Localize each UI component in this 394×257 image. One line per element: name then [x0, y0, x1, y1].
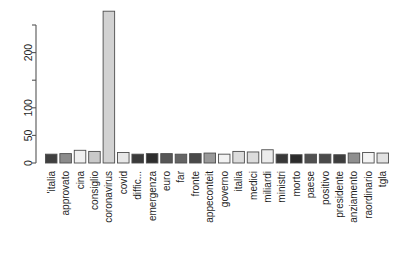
bar — [319, 154, 331, 163]
x-axis-label: emergenza — [147, 171, 158, 221]
bar — [305, 154, 317, 163]
x-axis-label: governo — [219, 171, 230, 208]
bar — [146, 154, 158, 163]
x-axis-label: ministri — [276, 171, 287, 203]
bar — [118, 153, 130, 163]
y-tick-label: 100 — [22, 99, 34, 117]
x-axis-label: morto — [291, 171, 302, 197]
bar — [377, 153, 389, 163]
y-tick-label: 200 — [22, 44, 34, 62]
bar — [45, 154, 57, 163]
bar — [233, 151, 245, 163]
x-axis-label: raordinario — [363, 171, 374, 219]
bar — [60, 154, 72, 163]
bar — [190, 154, 202, 163]
x-axis-label: presidente — [334, 171, 345, 218]
bar — [175, 154, 187, 163]
x-axis-label: medici — [248, 171, 259, 200]
bar — [334, 155, 346, 163]
bar — [247, 152, 259, 163]
x-axis-label: italia — [233, 171, 244, 192]
bar — [103, 11, 115, 163]
x-axis-label: positivo — [320, 171, 331, 205]
x-axis-label: covid — [118, 171, 129, 194]
x-axis-label: coronavirus — [103, 171, 114, 223]
x-axis-label: miliardi — [262, 171, 273, 203]
bars-group — [45, 11, 388, 163]
y-axis: 050100200 — [22, 25, 36, 166]
x-axis-label: fronte — [190, 171, 201, 197]
x-axis-label: euro — [161, 171, 172, 191]
x-axis-label: approvato — [60, 171, 71, 216]
x-axis-label: diffic... — [132, 171, 143, 200]
bar — [276, 154, 288, 163]
chart-canvas: 050100200 'italiaapprovatocinaconsiglioc… — [0, 0, 394, 257]
barplot-chart: 050100200 'italiaapprovatocinaconsiglioc… — [0, 0, 394, 257]
bar — [161, 154, 173, 163]
x-axis-labels: 'italiaapprovatocinaconsigliocoronavirus… — [46, 170, 389, 222]
x-axis-label: tgla — [377, 171, 388, 188]
y-tick-label: 50 — [22, 129, 34, 141]
y-tick-label: 0 — [22, 160, 34, 166]
x-axis-label: 'italia — [46, 171, 57, 194]
x-axis-label: anziamento — [348, 171, 359, 223]
x-axis-label: cina — [75, 171, 86, 190]
x-axis-label: appeconteit — [204, 171, 215, 223]
bar — [262, 150, 274, 163]
bar — [218, 154, 230, 163]
bar — [204, 153, 216, 163]
bar — [132, 154, 144, 163]
x-axis-label: far — [175, 170, 186, 182]
bar — [363, 153, 375, 163]
bar — [348, 153, 360, 163]
x-axis-label: paese — [305, 171, 316, 199]
bar — [74, 150, 86, 163]
x-axis-label: consiglio — [89, 171, 100, 210]
bar — [89, 151, 101, 163]
bar — [291, 155, 303, 163]
